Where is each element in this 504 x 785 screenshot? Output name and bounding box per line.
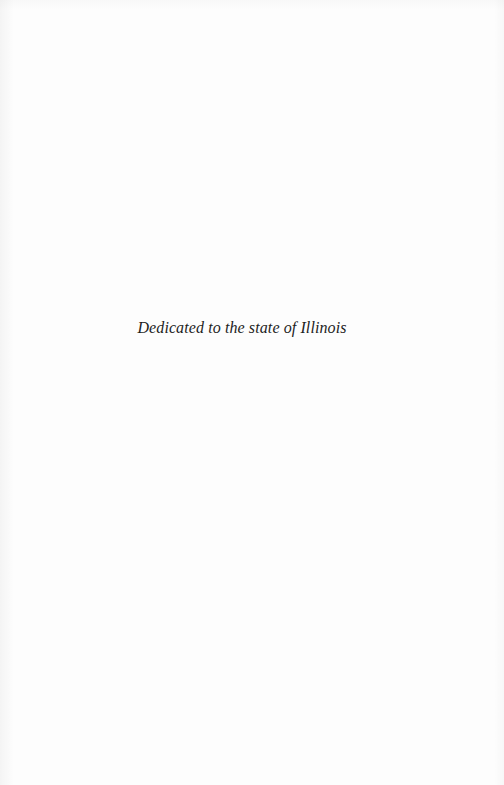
book-page: Dedicated to the state of Illinois [0,0,504,785]
dedication-text: Dedicated to the state of Illinois [0,318,484,338]
